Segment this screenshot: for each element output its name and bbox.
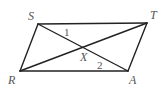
angle-label-1: 1 bbox=[64, 26, 70, 38]
intersection-label-x: X bbox=[79, 50, 88, 64]
side-rs bbox=[20, 24, 38, 71]
angle-label-2: 2 bbox=[97, 59, 103, 71]
parallelogram-diagram: S T R A X 1 2 bbox=[0, 0, 166, 91]
vertex-label-s: S bbox=[28, 9, 34, 23]
vertex-label-a: A bbox=[128, 73, 137, 87]
side-st bbox=[38, 23, 147, 24]
vertex-label-r: R bbox=[7, 73, 16, 87]
vertex-label-t: T bbox=[150, 8, 158, 22]
side-ta bbox=[128, 23, 147, 71]
